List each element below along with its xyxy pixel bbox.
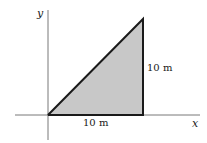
height-length-label: 10 m: [147, 62, 173, 73]
y-axis-label: y: [36, 7, 44, 20]
x-axis-label: x: [192, 117, 199, 130]
base-length-label: 10 m: [83, 117, 109, 128]
triangle-diagram: y x 10 m 10 m: [0, 0, 207, 143]
